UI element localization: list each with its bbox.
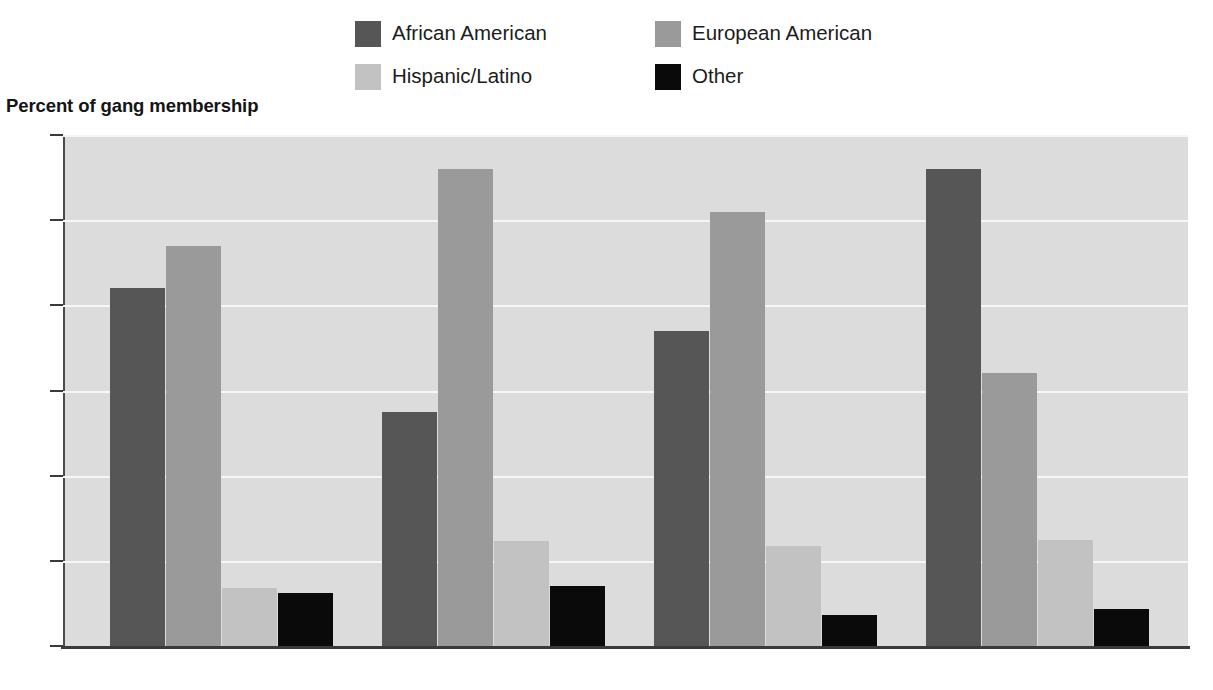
bar [710, 212, 765, 646]
bar [438, 169, 493, 646]
bar [1094, 609, 1149, 646]
bar [278, 593, 333, 646]
legend-swatch-african-american [355, 21, 381, 47]
legend-label-european-american: European American [692, 20, 872, 46]
legend-label-african-american: African American [392, 20, 547, 46]
legend-label-other: Other [692, 63, 743, 89]
gridline-40 [63, 305, 1188, 307]
legend-swatch-european-american [655, 21, 681, 47]
bar [822, 615, 877, 647]
legend-label-hispanic-latino: Hispanic/Latino [392, 63, 532, 89]
bar [110, 288, 165, 646]
y-tick-10 [50, 560, 63, 562]
y-axis-title: Percent of gang membership [6, 95, 258, 117]
y-tick-60 [50, 134, 63, 136]
bar [494, 541, 549, 646]
legend-swatch-other [655, 64, 681, 90]
bar [926, 169, 981, 646]
bar [654, 331, 709, 646]
y-tick-20 [50, 475, 63, 477]
legend-swatch-hispanic-latino [355, 64, 381, 90]
bar [550, 586, 605, 646]
bar [982, 373, 1037, 646]
y-tick-30 [50, 390, 63, 392]
bar [1038, 540, 1093, 646]
bar [766, 546, 821, 646]
legend-item-african-american: African American [355, 20, 655, 47]
legend-item-hispanic-latino: Hispanic/Latino [355, 63, 655, 90]
y-tick-40 [50, 304, 63, 306]
legend-item-european-american: European American [655, 20, 955, 47]
bar-chart: 0102030405060 Larger citiesSuburban coun… [63, 135, 1188, 646]
legend-item-other: Other [655, 63, 955, 90]
gridline-60 [63, 135, 1188, 137]
x-axis-baseline [61, 646, 1190, 649]
chart-legend: African American European American Hispa… [355, 20, 975, 106]
y-tick-50 [50, 219, 63, 221]
bar [166, 246, 221, 646]
bar [222, 588, 277, 646]
bar [382, 412, 437, 646]
gridline-50 [63, 220, 1188, 222]
